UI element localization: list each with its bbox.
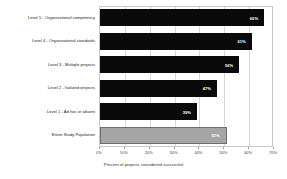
axis-tick-label: 30% — [170, 150, 178, 155]
axis-tick-label: 50% — [219, 150, 227, 155]
axis-tick-label: 40% — [194, 150, 202, 155]
axis-tick-label: 0% — [96, 150, 102, 155]
axis-tick-label: 10% — [120, 150, 128, 155]
bar-value-label: 47% — [203, 86, 211, 91]
x-axis-title: Percent of projects considered successfu… — [0, 162, 287, 167]
category-label: Level 2 - Isolated projects — [0, 86, 95, 91]
bar-row: Level 3 - Multiple projects56% — [0, 53, 287, 77]
bar: 56% — [100, 56, 239, 73]
x-axis: 0%10%20%30%40%50%60%70% — [99, 147, 273, 159]
category-label: Level 5 - Organizational competency — [0, 16, 95, 21]
bar-value-label: 39% — [183, 109, 191, 114]
category-label: Level 3 - Multiple projects — [0, 63, 95, 68]
bar-row: Level 4 - Organizational standards61% — [0, 30, 287, 54]
bar-value-label: 61% — [237, 39, 245, 44]
axis-tick — [174, 147, 175, 149]
bar-row: Level 2 - Isolated projects47% — [0, 77, 287, 101]
axis-tick-label: 60% — [244, 150, 252, 155]
axis-tick — [149, 147, 150, 149]
bar: 51% — [100, 127, 227, 144]
bar-value-label: 51% — [212, 133, 220, 138]
bar-value-label: 56% — [225, 62, 233, 67]
bar-row: Level 1 - Ad hoc or absent39% — [0, 100, 287, 124]
bar: 66% — [100, 9, 264, 26]
axis-tick — [124, 147, 125, 149]
axis-tick — [248, 147, 249, 149]
bar-chart: Level 5 - Organizational competency66%Le… — [0, 0, 287, 179]
bar-rows: Level 5 - Organizational competency66%Le… — [0, 6, 287, 147]
axis-tick — [273, 147, 274, 149]
bar: 39% — [100, 103, 197, 120]
bar-row: Entire Study Population51% — [0, 124, 287, 148]
bar-value-label: 66% — [250, 15, 258, 20]
bar: 47% — [100, 80, 217, 97]
bar-row: Level 5 - Organizational competency66% — [0, 6, 287, 30]
category-label: Entire Study Population — [0, 133, 95, 138]
axis-tick-label: 70% — [269, 150, 277, 155]
axis-tick — [223, 147, 224, 149]
axis-tick — [198, 147, 199, 149]
axis-tick — [99, 147, 100, 149]
category-label: Level 4 - Organizational standards — [0, 39, 95, 44]
category-label: Level 1 - Ad hoc or absent — [0, 110, 95, 115]
bar: 61% — [100, 33, 252, 50]
axis-tick-label: 20% — [145, 150, 153, 155]
